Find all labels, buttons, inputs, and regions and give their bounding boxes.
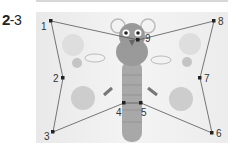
dot-label-9: 9 [145, 33, 151, 44]
dot-4 [122, 101, 126, 105]
dot-label-1: 1 [41, 21, 47, 32]
dot-8 [212, 19, 216, 23]
dot-label-8: 8 [218, 16, 224, 27]
dot-label-2: 2 [53, 73, 59, 84]
dot-label-7: 7 [204, 73, 210, 84]
dot-3 [51, 130, 55, 134]
dot-label-4: 4 [116, 107, 122, 118]
dot-1 [49, 19, 53, 23]
dot-label-5: 5 [141, 107, 147, 118]
dot-7 [198, 76, 202, 80]
dot-9 [136, 38, 140, 42]
dot-label-6: 6 [216, 128, 222, 139]
connect-dots-illustration: 1 2 3 4 5 6 7 8 9 [0, 0, 238, 149]
dot-6 [210, 131, 214, 135]
dot-label-3: 3 [44, 131, 50, 142]
dot-5 [139, 101, 143, 105]
dot-2 [61, 76, 65, 80]
